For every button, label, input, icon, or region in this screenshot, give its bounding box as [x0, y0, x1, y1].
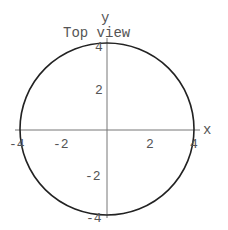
x-tick-label: -4: [9, 137, 25, 152]
x-tick-label: -2: [53, 137, 69, 152]
y-tick-label: 2: [95, 83, 103, 98]
y-tick-label: 4: [95, 40, 103, 55]
plot-canvas: y Top view x -4 -2 2 4 4 2 -2 -4: [0, 0, 228, 230]
y-tick-label: -2: [85, 169, 101, 184]
y-axis-label: y: [101, 10, 109, 26]
x-tick-label: 4: [190, 137, 198, 152]
x-axis-label: x: [203, 122, 211, 138]
y-tick-label: -4: [86, 211, 102, 226]
x-tick-label: 2: [146, 137, 154, 152]
plot-title: Top view: [63, 25, 131, 41]
